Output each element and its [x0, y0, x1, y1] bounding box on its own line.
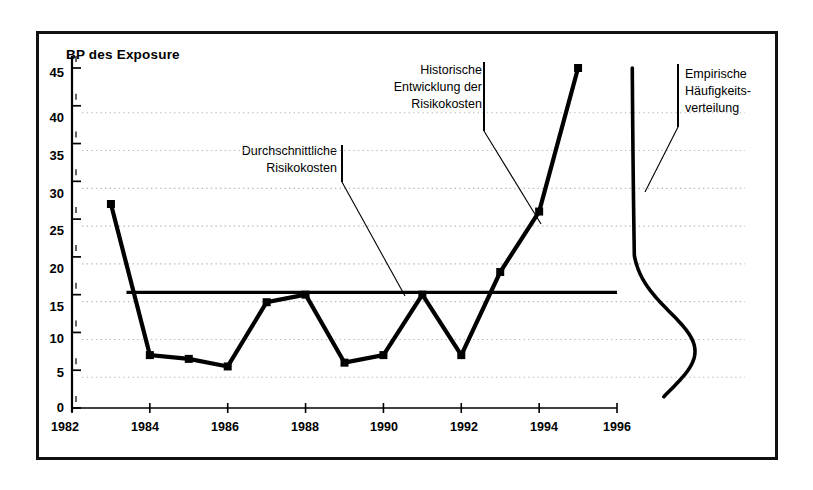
annotation-line: Risikokosten: [182, 160, 337, 177]
x-tick-label-1990: 1990: [361, 420, 407, 434]
y-tick-label-20: 20: [38, 261, 64, 276]
y-tick-label-35: 35: [38, 148, 64, 163]
chart-title: BP des Exposure: [66, 47, 180, 62]
figure-container: BP des Exposure 45 40 35 30 25 20 15 10 …: [0, 0, 813, 490]
x-tick-label-1982: 1982: [42, 420, 88, 434]
x-tick-label-1992: 1992: [441, 420, 487, 434]
annotation-historische-entwicklung: Historische Entwicklung der Risikokosten: [340, 62, 482, 113]
x-tick-label-1988: 1988: [282, 420, 328, 434]
y-tick-label-25: 25: [38, 223, 64, 238]
annotation-line: Durchschnittliche: [182, 143, 337, 160]
x-tick-label-1994: 1994: [521, 420, 567, 434]
y-tick-label-15: 15: [38, 299, 64, 314]
x-tick-label-1996: 1996: [594, 420, 640, 434]
annotation-durchschnittliche-risikokosten: Durchschnittliche Risikokosten: [182, 143, 337, 177]
x-tick-label-1984: 1984: [122, 420, 168, 434]
annotation-line: verteilung: [685, 100, 805, 117]
x-tick-label-1986: 1986: [202, 420, 248, 434]
annotation-empirische-haeufigkeitsverteilung: Empirische Häufigkeits- verteilung: [685, 66, 805, 117]
annotation-line: Empirische: [685, 66, 805, 83]
y-tick-label-45: 45: [38, 65, 64, 80]
annotation-line: Häufigkeits-: [685, 83, 805, 100]
annotation-line: Entwicklung der: [340, 79, 482, 96]
y-tick-label-10: 10: [38, 331, 64, 346]
y-tick-label-30: 30: [38, 186, 64, 201]
annotation-line: Historische: [340, 62, 482, 79]
y-tick-label-0: 0: [38, 400, 64, 415]
y-tick-label-5: 5: [38, 365, 64, 380]
y-tick-label-40: 40: [38, 110, 64, 125]
annotation-line: Risikokosten: [340, 96, 482, 113]
